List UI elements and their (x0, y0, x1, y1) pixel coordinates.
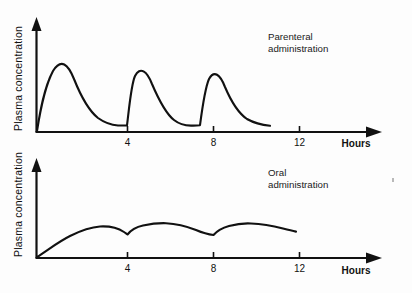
y-axis-arrowhead-parenteral (32, 17, 42, 31)
x-tick-label-8-parenteral: 8 (211, 137, 217, 148)
x-axis-title-oral: Hours (342, 265, 371, 276)
oral-concentration-curve (37, 223, 296, 257)
scan-artifact-speck (392, 178, 394, 182)
annotation-oral-line1: Oral (268, 167, 286, 178)
chart-panel-parenteral: 4 8 12 Hours Plasma concentration Parent… (0, 0, 412, 150)
chart-panel-oral: 4 8 12 Hours Plasma concentration Oral a… (0, 148, 412, 293)
figure-container: 4 8 12 Hours Plasma concentration Parent… (0, 0, 412, 293)
y-axis-title-oral: Plasma concentration (12, 152, 24, 257)
x-tick-label-4-parenteral: 4 (125, 137, 131, 148)
annotation-parenteral-line2: administration (268, 43, 328, 54)
annotation-parenteral-line1: Parenteral (268, 31, 313, 42)
y-axis-arrowhead-oral (32, 158, 42, 172)
y-axis-title-parenteral: Plasma concentration (12, 26, 24, 131)
x-tick-label-12-oral: 12 (294, 263, 306, 274)
x-axis-arrowhead-parenteral (366, 127, 382, 138)
parenteral-chart-svg: 4 8 12 Hours Plasma concentration Parent… (0, 0, 412, 150)
x-tick-label-4-oral: 4 (125, 263, 131, 274)
annotation-oral-line2: administration (268, 179, 328, 190)
x-axis-arrowhead-oral (366, 253, 382, 264)
oral-chart-svg: 4 8 12 Hours Plasma concentration Oral a… (0, 148, 412, 293)
parenteral-concentration-curve (37, 64, 270, 131)
x-tick-label-8-oral: 8 (211, 263, 217, 274)
x-tick-label-12-parenteral: 12 (294, 137, 306, 148)
